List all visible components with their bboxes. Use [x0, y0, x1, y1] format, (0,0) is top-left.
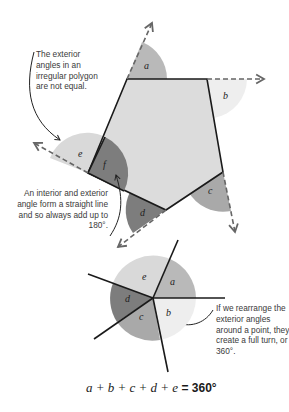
annotation-straight-line: An interior and exterior angle form a st… [14, 188, 108, 231]
annotation-full-turn: If we rearrange the exterior angles arou… [216, 303, 289, 357]
label-a: a [144, 60, 149, 71]
label-e: e [78, 148, 83, 159]
annotation-unequal-angles: The exterior angles in an irregular poly… [36, 49, 106, 92]
around-label-e: e [142, 271, 147, 282]
label-c: c [208, 185, 213, 196]
equation-variables: a + b + c + d + e [86, 380, 178, 395]
equation-result: = 360° [178, 381, 217, 395]
label-b: b [223, 90, 228, 101]
around-label-a: a [170, 276, 175, 287]
angles-around-point: a b c d e [88, 240, 225, 372]
around-label-b: b [166, 307, 171, 318]
around-label-c: c [139, 311, 144, 322]
sum-equation: a + b + c + d + e = 360° [86, 380, 217, 396]
